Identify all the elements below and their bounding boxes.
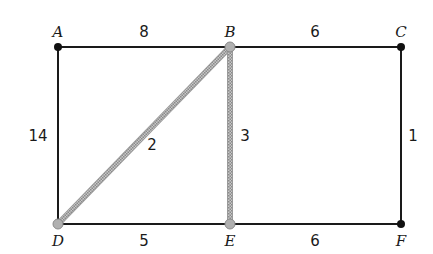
vertex-label-E: E [224, 232, 236, 250]
vertex-E [225, 219, 235, 229]
weight-B-E: 3 [240, 127, 250, 145]
vertex-label-D: D [51, 232, 64, 250]
vertex-A [54, 43, 62, 51]
vertex-label-A: A [51, 23, 64, 41]
weight-C-F: 1 [408, 127, 418, 145]
vertex-label-B: B [223, 23, 235, 41]
vertex-D [53, 219, 63, 229]
weight-A-B: 8 [139, 23, 149, 41]
weight-E-F: 6 [310, 232, 320, 250]
weight-A-D: 14 [28, 127, 47, 145]
vertex-label-C: C [395, 23, 407, 41]
weight-D-E: 5 [139, 232, 149, 250]
vertex-label-F: F [395, 232, 407, 250]
graph-diagram: A B C D E F 8 6 14 2 3 1 5 6 [0, 0, 433, 254]
graph-svg: A B C D E F 8 6 14 2 3 1 5 6 [0, 0, 433, 254]
weight-B-D: 2 [147, 136, 157, 154]
vertex-C [397, 43, 405, 51]
edge-B-D-highlighted-inner [58, 47, 230, 224]
vertex-B [225, 42, 235, 52]
weight-B-C: 6 [310, 23, 320, 41]
vertex-F [397, 220, 405, 228]
